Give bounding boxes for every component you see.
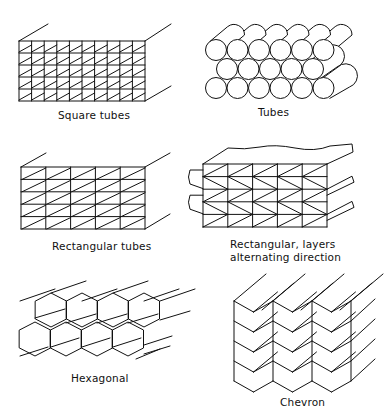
rectangular-tubes-drawing bbox=[21, 153, 170, 229]
square-tubes-drawing bbox=[19, 24, 171, 101]
caption-line-1: Rectangular, layers bbox=[230, 238, 341, 251]
caption-tubes: Tubes bbox=[258, 106, 289, 119]
chevron-drawing bbox=[234, 274, 383, 392]
caption-chevron: Chevron bbox=[280, 396, 325, 409]
honeycomb-figure bbox=[0, 0, 390, 416]
rectangular-alternating-drawing bbox=[189, 144, 355, 227]
caption-line-2: alternating direction bbox=[230, 251, 341, 264]
caption-hexagonal: Hexagonal bbox=[71, 372, 129, 385]
tubes-drawing bbox=[206, 24, 358, 98]
caption-square-tubes: Square tubes bbox=[58, 109, 130, 122]
hexagonal-drawing bbox=[20, 281, 196, 359]
caption-rectangular-tubes: Rectangular tubes bbox=[52, 240, 151, 253]
caption-rectangular-alternating: Rectangular, layers alternating directio… bbox=[230, 238, 341, 264]
